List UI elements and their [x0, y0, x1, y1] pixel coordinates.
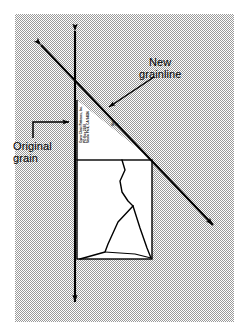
pattern-company-line3: Menlo Park, CA 94026 [87, 106, 91, 143]
figure-canvas: New grainline Original grain Open Chair … [0, 0, 250, 336]
pattern-company-block: Open Chair Patterns, Inc. PO Box 2288 Me… [80, 106, 91, 143]
original-grain-label-line1: Original [13, 140, 52, 152]
grainline-diagram-svg [0, 0, 250, 336]
pattern-size-line2: 12 [116, 120, 120, 126]
pattern-size-block: Size 12 [112, 120, 119, 126]
original-grain-label-line2: grain [13, 152, 52, 164]
new-grainline-label-line1: New [139, 56, 181, 68]
pattern-piece-rectangle [77, 160, 152, 259]
original-grain-label: Original grain [13, 140, 52, 164]
new-grainline-label-line2: grainline [139, 68, 181, 80]
new-grainline-label: New grainline [139, 56, 181, 80]
